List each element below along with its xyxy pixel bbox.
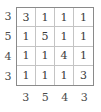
- grid-cell[interactable]: 1: [74, 47, 93, 66]
- grid-cell[interactable]: 1: [17, 47, 36, 66]
- column-label-2: 5: [36, 88, 56, 106]
- grid-cell[interactable]: 1: [17, 27, 36, 46]
- grid-cell[interactable]: 1: [74, 8, 93, 27]
- grid-cell[interactable]: 5: [36, 27, 55, 46]
- grid-cell[interactable]: 1: [17, 66, 36, 85]
- column-label-3: 4: [55, 88, 75, 106]
- row-label-1: 3: [0, 7, 16, 27]
- row-labels: 3 5 4 3: [0, 7, 16, 86]
- column-label-4: 3: [75, 88, 95, 106]
- grid-cell[interactable]: 4: [55, 47, 74, 66]
- grid-cell[interactable]: 1: [36, 66, 55, 85]
- grid-cell[interactable]: 1: [55, 27, 74, 46]
- grid-cell[interactable]: 1: [36, 47, 55, 66]
- grid-cell[interactable]: 1: [74, 27, 93, 46]
- grid-cell[interactable]: 1: [55, 66, 74, 85]
- numeric-grid-puzzle: 3 5 4 3 3 1 1 1 1 5 1 1 1 1 4 1 1 1 1 3 …: [0, 0, 101, 112]
- grid-cell[interactable]: 1: [36, 8, 55, 27]
- grid-cell[interactable]: 3: [17, 8, 36, 27]
- grid-cell[interactable]: 1: [55, 8, 74, 27]
- row-label-4: 3: [0, 66, 16, 86]
- grid: 3 1 1 1 1 5 1 1 1 1 4 1 1 1 1 3: [16, 7, 94, 86]
- row-label-3: 4: [0, 47, 16, 67]
- grid-cell[interactable]: 3: [74, 66, 93, 85]
- row-label-2: 5: [0, 27, 16, 47]
- column-labels: 3 5 4 3: [16, 88, 94, 106]
- column-label-1: 3: [16, 88, 36, 106]
